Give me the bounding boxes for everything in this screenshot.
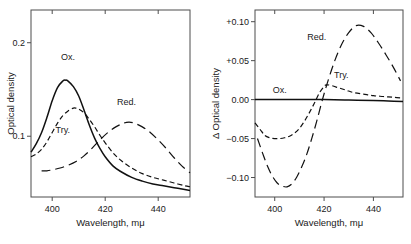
y-axis-label: Optical density [5, 72, 16, 135]
y-tick-label: 0.00 [231, 95, 249, 105]
y-tick-label: −0.05 [226, 134, 249, 144]
chart-panel-left: 4004204400.10.2Wavelength, mμOptical den… [0, 0, 206, 244]
x-tick-label: 400 [45, 204, 60, 214]
figure-container: 4004204400.10.2Wavelength, mμOptical den… [0, 0, 411, 244]
curve-label-red: Red. [307, 32, 326, 42]
curve-try [31, 108, 190, 187]
y-tick-label: +0.05 [226, 56, 249, 66]
curve-ox [255, 100, 403, 102]
curve-label-try: Try. [334, 70, 349, 80]
curve-red [257, 25, 400, 187]
x-tick-label: 420 [317, 204, 332, 214]
chart-panel-right: 400420440+0.10+0.050.00−0.05−0.10Wavelen… [205, 0, 411, 244]
y-tick-label: −0.10 [226, 173, 249, 183]
chart-svg-left: 4004204400.10.2Wavelength, mμOptical den… [0, 0, 206, 244]
plot-frame [31, 10, 190, 197]
x-tick-label: 400 [267, 204, 282, 214]
y-tick-label: 0.2 [12, 38, 25, 48]
curve-label-ox: Ox. [273, 85, 287, 95]
chart-svg-right: 400420440+0.10+0.050.00−0.05−0.10Wavelen… [205, 0, 411, 244]
plot-area-left: 4004204400.10.2Wavelength, mμOptical den… [5, 10, 190, 228]
plot-frame [255, 10, 403, 197]
x-axis-label: Wavelength, mμ [295, 217, 363, 228]
x-tick-label: 420 [98, 204, 113, 214]
y-axis-label: Δ Optical density [210, 68, 221, 139]
curve-label-red: Red. [117, 97, 136, 107]
plot-area-right: 400420440+0.10+0.050.00−0.05−0.10Wavelen… [210, 10, 403, 228]
x-tick-label: 440 [366, 204, 381, 214]
curve-label-ox: Ox. [61, 52, 75, 62]
y-tick-label: +0.10 [226, 17, 249, 27]
curve-label-try: Try. [56, 125, 71, 135]
x-axis-label: Wavelength, mμ [76, 217, 144, 228]
x-tick-label: 440 [151, 204, 166, 214]
